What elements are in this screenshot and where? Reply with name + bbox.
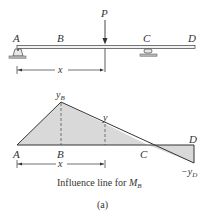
- il-point-label-a: A: [12, 148, 20, 160]
- influence-line-diagram: yB y A B C D −yD x: [12, 89, 197, 179]
- beam: [17, 46, 195, 49]
- point-label-d: D: [187, 32, 196, 44]
- beam-diagram: P A B C D x: [9, 7, 196, 75]
- figure-label: (a): [97, 199, 108, 211]
- caption: Influence line for MB: [57, 177, 142, 190]
- diagram-canvas: P A B C D x yB y A B C D: [0, 0, 203, 223]
- ordinate-label-y: y: [102, 112, 108, 123]
- il-point-label-c: C: [140, 148, 148, 160]
- il-dimension-label-x: x: [57, 158, 63, 169]
- pin-support-icon: [9, 49, 26, 58]
- peak-label: yB: [55, 89, 65, 102]
- positive-region: [17, 102, 148, 145]
- roller-support-icon: [140, 49, 157, 56]
- il-point-label-d: D: [188, 133, 197, 145]
- dimension-label-x: x: [57, 64, 63, 75]
- load-label: P: [100, 7, 108, 19]
- point-label-c: C: [143, 32, 151, 44]
- end-label: −yD: [181, 166, 197, 179]
- point-label-b: B: [57, 32, 64, 44]
- point-label-a: A: [12, 32, 20, 44]
